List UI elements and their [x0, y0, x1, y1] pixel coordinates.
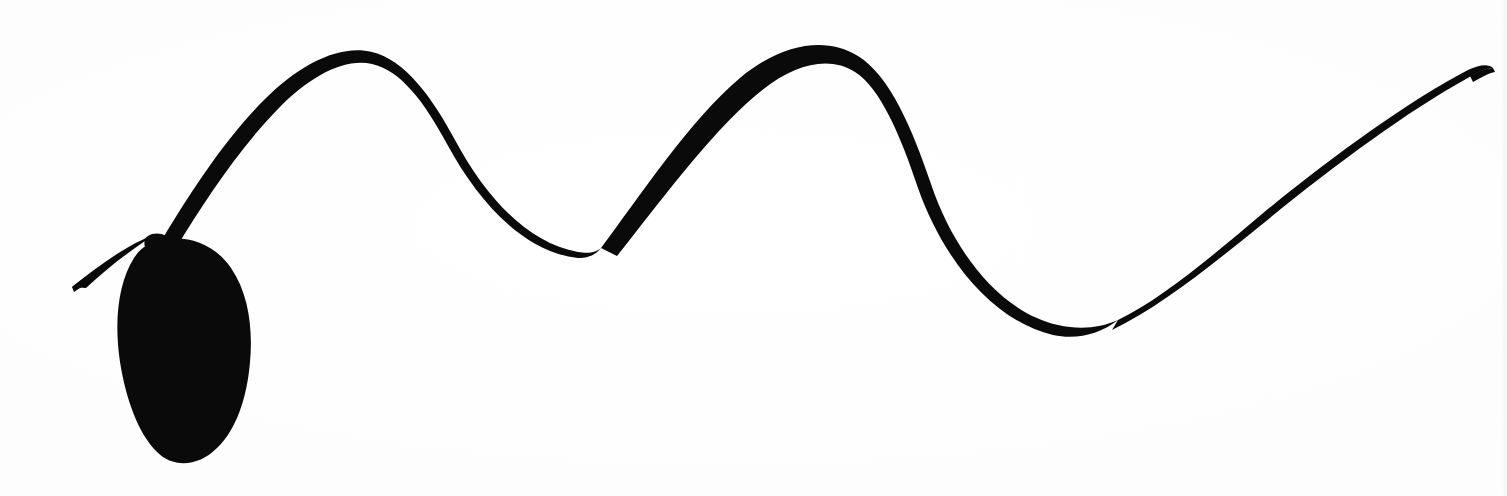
page-edge-shading	[1501, 0, 1507, 496]
flourish-drawing: Calligraphic flourish A single continuou…	[0, 0, 1507, 496]
flourish-ink-stroke	[72, 45, 1493, 463]
artboard: Calligraphic flourish A single continuou…	[0, 0, 1507, 496]
